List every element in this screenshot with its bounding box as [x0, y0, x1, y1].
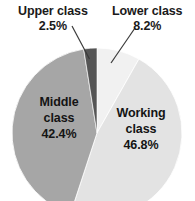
slice-label-middle-class: Middle class 42.4% — [28, 95, 90, 142]
slice-label-middle-class-name-line1: Middle — [28, 95, 90, 111]
pie-chart: Upper class 2.5% Lower class 8.2% Middle… — [0, 0, 195, 201]
slice-label-lower-class-name: Lower class — [112, 4, 182, 19]
slice-label-upper-class-name: Upper class — [18, 4, 88, 19]
slice-label-middle-class-name-line2: class — [28, 111, 90, 127]
slice-label-working-class-name-line2: class — [108, 122, 174, 138]
slice-label-working-class-value: 46.8% — [108, 138, 174, 154]
slice-label-lower-class-value: 8.2% — [112, 19, 182, 34]
slice-label-working-class-name-line1: Working — [108, 106, 174, 122]
slice-label-upper-class: Upper class 2.5% — [18, 4, 88, 35]
slice-label-upper-class-value: 2.5% — [18, 19, 88, 34]
slice-label-middle-class-value: 42.4% — [28, 127, 90, 143]
slice-label-working-class: Working class 46.8% — [108, 106, 174, 153]
slice-label-lower-class: Lower class 8.2% — [112, 4, 182, 35]
